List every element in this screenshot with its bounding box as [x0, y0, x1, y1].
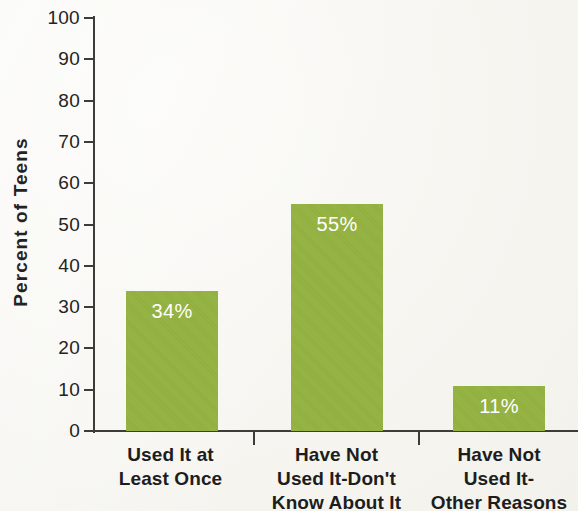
y-axis-title: Percent of Teens	[4, 2, 38, 442]
bar: 11%	[453, 386, 545, 431]
y-axis-tick	[84, 306, 94, 308]
x-axis-category-label-line: Least Once	[88, 467, 253, 491]
y-axis-tick	[84, 141, 94, 143]
y-axis-tick-label: 0	[36, 420, 80, 442]
y-axis-tick-label: 50	[36, 214, 80, 236]
y-axis-tick-label: 80	[36, 90, 80, 112]
y-axis-tick-label: 90	[36, 48, 80, 70]
y-axis-tick	[84, 182, 94, 184]
x-axis-category-label-line: Used It at	[88, 443, 253, 467]
bar-value-label: 11%	[453, 395, 545, 418]
y-axis-tick	[84, 389, 94, 391]
y-axis-tick-label: 30	[36, 296, 80, 318]
y-axis-tick-label: 60	[36, 172, 80, 194]
x-axis-category-label-line: Used It-	[420, 467, 578, 491]
y-axis-tick	[84, 100, 94, 102]
y-axis-tick	[84, 430, 94, 432]
x-axis-category-label-line: Have Not	[255, 443, 418, 467]
y-axis-tick-label: 40	[36, 255, 80, 277]
x-axis-category-label-line: Have Not	[420, 443, 578, 467]
y-axis-tick-label: 10	[36, 379, 80, 401]
x-axis-category-label-line: Know About It	[255, 491, 418, 511]
bar-value-label: 55%	[291, 213, 383, 236]
bar-chart: Percent of Teens 0102030405060708090100 …	[0, 0, 578, 511]
x-axis-category-label: Have NotUsed It-Don'tKnow About It	[255, 443, 418, 511]
x-axis-category-label: Used It atLeast Once	[88, 443, 253, 491]
bar-value-label: 34%	[126, 300, 218, 323]
y-axis-tick-label: 20	[36, 337, 80, 359]
y-axis-tick	[84, 265, 94, 267]
y-axis-tick-label: 100	[36, 7, 80, 29]
y-axis-tick	[84, 347, 94, 349]
bar: 34%	[126, 291, 218, 431]
x-axis-category-label: Have NotUsed It-Other Reasons	[420, 443, 578, 511]
y-axis-tick	[84, 224, 94, 226]
bar: 55%	[291, 204, 383, 431]
y-axis-tick	[84, 17, 94, 19]
x-axis-category-label-line: Other Reasons	[420, 491, 578, 511]
x-axis-category-label-line: Used It-Don't	[255, 467, 418, 491]
y-axis-tick-label: 70	[36, 131, 80, 153]
y-axis-tick	[84, 58, 94, 60]
